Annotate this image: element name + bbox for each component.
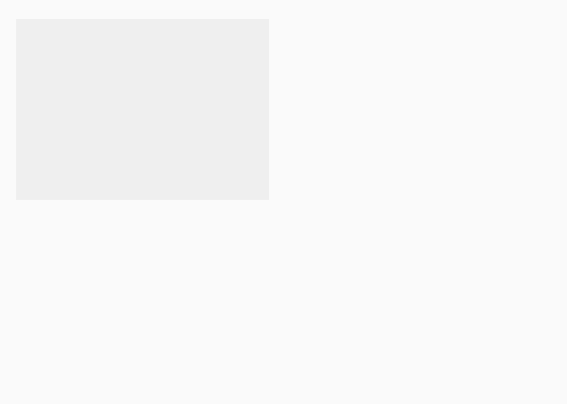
map: [0, 0, 567, 404]
